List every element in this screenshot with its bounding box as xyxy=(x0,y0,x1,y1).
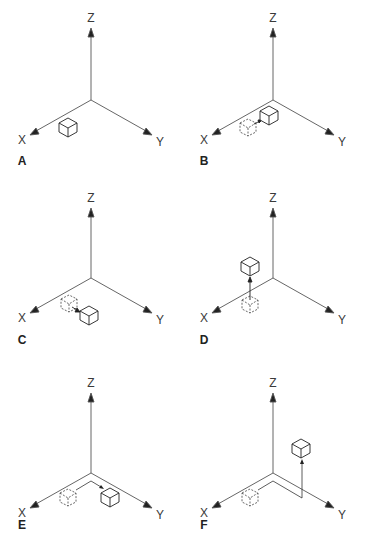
y-axis-label: Y xyxy=(156,509,164,521)
dashed-box-icon xyxy=(242,489,258,506)
panel-b-drawing xyxy=(182,0,367,178)
axes xyxy=(30,28,152,135)
move-path xyxy=(258,463,302,498)
y-axis xyxy=(91,278,146,309)
x-axis-label: X xyxy=(200,312,208,324)
panel-letter: A xyxy=(18,155,27,167)
x-axis xyxy=(36,278,91,309)
panel-letter: F xyxy=(200,519,207,531)
y-axis xyxy=(91,100,146,131)
x-axis xyxy=(218,278,273,309)
panel-b: Z X Y B xyxy=(182,0,367,178)
panel-letter: D xyxy=(200,334,209,346)
move-arrow-icon xyxy=(72,307,80,312)
box-icon xyxy=(101,488,119,507)
x-arrow-icon xyxy=(30,501,39,508)
dashed-box-icon xyxy=(60,489,76,506)
panel-e: Z X Y E xyxy=(0,363,185,533)
dashed-box-icon xyxy=(240,119,256,136)
box-icon xyxy=(59,118,77,137)
axes xyxy=(212,393,334,508)
panel-c-drawing xyxy=(0,180,185,358)
y-axis-label: Y xyxy=(338,509,346,521)
x-arrow-icon xyxy=(30,128,39,135)
z-axis-label: Z xyxy=(269,12,276,24)
z-arrow-icon xyxy=(270,393,276,402)
box-icon xyxy=(80,306,98,325)
panel-a: Z X Y A xyxy=(0,0,185,178)
y-axis-label: Y xyxy=(338,136,346,148)
axes xyxy=(30,393,152,508)
panel-letter: B xyxy=(200,155,209,167)
z-axis-label: Z xyxy=(87,377,94,389)
z-axis-label: Z xyxy=(87,12,94,24)
box-icon xyxy=(241,257,259,276)
z-arrow-icon xyxy=(270,208,276,217)
y-axis-label: Y xyxy=(156,314,164,326)
panel-d: Z X Y D xyxy=(182,180,367,358)
panel-d-drawing xyxy=(182,180,367,358)
y-arrow-icon xyxy=(325,306,334,313)
x-axis-label: X xyxy=(18,312,26,324)
y-axis xyxy=(273,278,328,309)
move-arrow-icon xyxy=(99,485,104,489)
z-arrow-icon xyxy=(88,28,94,37)
move-path xyxy=(76,481,101,490)
y-arrow-icon xyxy=(143,128,152,135)
axes xyxy=(212,208,334,313)
panel-letter: C xyxy=(18,334,27,346)
y-arrow-icon xyxy=(143,306,152,313)
x-axis xyxy=(36,473,91,504)
z-axis-label: Z xyxy=(269,377,276,389)
x-axis-label: X xyxy=(200,134,208,146)
z-axis-label: Z xyxy=(269,192,276,204)
y-arrow-icon xyxy=(325,501,334,508)
panel-a-drawing xyxy=(0,0,185,178)
x-arrow-icon xyxy=(30,306,39,313)
z-arrow-icon xyxy=(270,28,276,37)
panel-letter: E xyxy=(18,519,26,531)
z-arrow-icon xyxy=(88,393,94,402)
x-arrow-icon xyxy=(212,128,221,135)
y-arrow-icon xyxy=(325,128,334,135)
y-axis-label: Y xyxy=(156,136,164,148)
x-arrow-icon xyxy=(212,501,221,508)
box-icon xyxy=(260,106,278,125)
z-arrow-icon xyxy=(88,208,94,217)
dashed-box-icon xyxy=(61,295,77,312)
y-axis xyxy=(273,100,328,131)
panel-f: Z X Y F xyxy=(182,363,367,533)
x-axis-label: X xyxy=(18,134,26,146)
y-axis xyxy=(273,473,328,504)
y-arrow-icon xyxy=(143,501,152,508)
axes xyxy=(30,208,152,313)
y-axis-label: Y xyxy=(338,314,346,326)
z-axis-label: Z xyxy=(87,192,94,204)
x-axis xyxy=(218,473,273,504)
move-arrow-icon xyxy=(300,459,304,464)
box-icon xyxy=(292,439,310,458)
x-arrow-icon xyxy=(212,306,221,313)
panel-c: Z X Y C xyxy=(0,180,185,358)
